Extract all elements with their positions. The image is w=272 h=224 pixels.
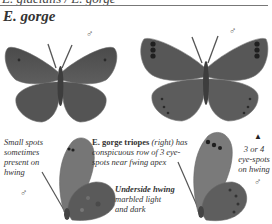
small-spots-note: Small spots sometimes present on hwing: [4, 137, 48, 177]
marker-triangle: ▲: [254, 132, 262, 141]
underside-note: Underside hwing marbled light and dark: [115, 184, 175, 214]
triopes-name: E. gorge triopes: [92, 137, 149, 147]
header-rule: [0, 5, 268, 6]
butterfly-upperside-right: [138, 33, 270, 125]
triopes-note: E. gorge triopes (right) has conspicuous…: [92, 137, 192, 167]
triopes-paren: (right): [152, 137, 174, 147]
species-heading: E. gorge: [3, 8, 56, 25]
butterfly-upperside-left: [2, 38, 122, 126]
male-symbol: ♂: [254, 176, 262, 187]
underside-text: marbled light and dark: [115, 194, 161, 214]
underside-bold: Underside hwing: [115, 184, 175, 194]
eyespots-note: 3 or 4 eye-spots on hwing: [236, 144, 272, 174]
male-symbol: ♂: [20, 187, 28, 198]
